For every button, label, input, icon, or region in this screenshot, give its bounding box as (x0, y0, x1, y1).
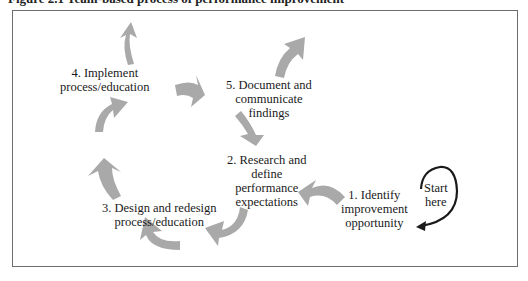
step-5-label: 5. Document and communicate findings (226, 78, 312, 120)
step-4-line: 4. Implement (60, 66, 150, 80)
step-3-line: 3. Design and redesign (102, 201, 217, 215)
step-5-line: communicate (226, 92, 312, 106)
arrow-4-top (120, 22, 137, 65)
step-3-line: process/education (102, 215, 217, 229)
step-3-label: 3. Design and redesign process/education (102, 201, 217, 229)
step-1-line: improvement (341, 202, 408, 216)
arrow-3-to-4-upper (95, 97, 128, 132)
arrow-5-top (275, 37, 305, 78)
start-line: here (424, 195, 448, 209)
step-1-line: 1. Identify (341, 188, 408, 202)
step-2-line: performance (227, 181, 306, 195)
step-2-line: expectations (227, 195, 306, 209)
start-here-label: Start here (424, 181, 448, 209)
cycle-arrows (0, 0, 528, 281)
arrow-4-to-5 (175, 75, 205, 107)
step-5-line: findings (226, 106, 312, 120)
step-2-line: 2. Research and (227, 153, 306, 167)
step-1-line: opportunity (341, 216, 408, 230)
step-1-label: 1. Identify improvement opportunity (341, 188, 408, 230)
step-2-line: define (227, 167, 306, 181)
step-4-label: 4. Implement process/education (60, 66, 150, 94)
arrow-3-to-4-lower (88, 158, 121, 200)
step-4-line: process/education (60, 80, 150, 94)
step-5-line: 5. Document and (226, 78, 312, 92)
step-2-label: 2. Research and define performance expec… (227, 153, 306, 209)
start-line: Start (424, 181, 448, 195)
